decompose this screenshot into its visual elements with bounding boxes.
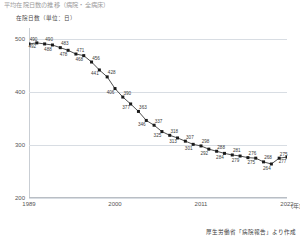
data-point-label: 468 — [75, 58, 83, 63]
y-axis-label: 在院日数（単位：日） — [16, 14, 76, 22]
data-point-label: 298 — [202, 140, 210, 145]
y-tick-label: 500 — [3, 36, 25, 42]
chart-page: 平均在院日数の推移（病院・全病床） 在院日数（単位：日） 50040030020… — [0, 0, 300, 243]
gridline — [29, 198, 287, 199]
data-point-label: 363 — [139, 106, 147, 111]
data-point-label: 488 — [44, 48, 52, 53]
data-point-label: 276 — [249, 152, 257, 157]
data-point-label: 275 — [247, 161, 255, 166]
x-tick-label: 1989 — [22, 201, 35, 207]
data-point-label: 490 — [45, 38, 53, 43]
chart-top-title: 平均在院日数の推移（病院・全病床） — [4, 0, 296, 9]
plot-area: 500400300200 1989200020112022(年) 4904924… — [29, 28, 287, 198]
data-point-label: 268 — [264, 156, 272, 161]
data-point-label: 471 — [77, 49, 85, 54]
data-point-label: 313 — [169, 140, 177, 145]
data-point-label: 337 — [155, 120, 163, 125]
source-note: 厚生労働省「病院報告」より作成 — [0, 228, 296, 236]
data-point-label: 318 — [170, 130, 178, 135]
data-point-label: 377 — [122, 106, 130, 111]
data-point-label: 284 — [216, 156, 224, 161]
data-point-label: 456 — [92, 57, 100, 62]
data-point-label: 483 — [61, 42, 69, 47]
data-point-label: 275 — [280, 153, 288, 158]
x-tick-label: 2000 — [108, 201, 121, 207]
data-point-label: 441 — [91, 72, 99, 77]
x-axis-unit: (年) — [291, 201, 300, 210]
data-point-label: 264 — [263, 167, 271, 172]
data-point-label: 288 — [217, 146, 225, 151]
data-point-label: 492 — [28, 45, 36, 50]
x-tick-label: 2011 — [195, 201, 208, 207]
data-point-label: 325 — [154, 134, 162, 139]
data-point-label: 292 — [200, 152, 208, 157]
data-point-label: 406 — [107, 91, 115, 96]
data-point-label: 390 — [123, 92, 131, 97]
data-point-label: 428 — [108, 71, 116, 76]
data-point-label: 346 — [138, 123, 146, 128]
data-point-label: 279 — [232, 159, 240, 164]
data-point-label: 490 — [30, 38, 38, 43]
data-point-label: 307 — [186, 136, 194, 141]
data-point-label: 478 — [60, 53, 68, 58]
data-point-label: 277 — [279, 160, 287, 165]
y-tick-label: 400 — [3, 89, 25, 95]
data-point-label: 301 — [185, 147, 193, 152]
data-point-label: 281 — [233, 149, 241, 154]
y-tick-label: 300 — [3, 142, 25, 148]
